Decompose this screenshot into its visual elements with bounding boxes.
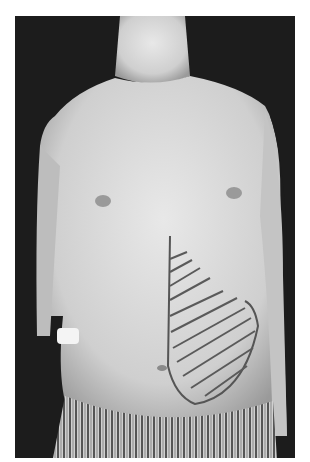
wrist-bandage	[57, 328, 79, 344]
neck	[115, 16, 190, 84]
nipple-left	[226, 187, 242, 199]
medical-photograph	[15, 16, 295, 458]
torso-illustration	[15, 16, 295, 458]
torso	[40, 76, 287, 436]
navel	[157, 365, 167, 371]
nipple-right	[95, 195, 111, 207]
